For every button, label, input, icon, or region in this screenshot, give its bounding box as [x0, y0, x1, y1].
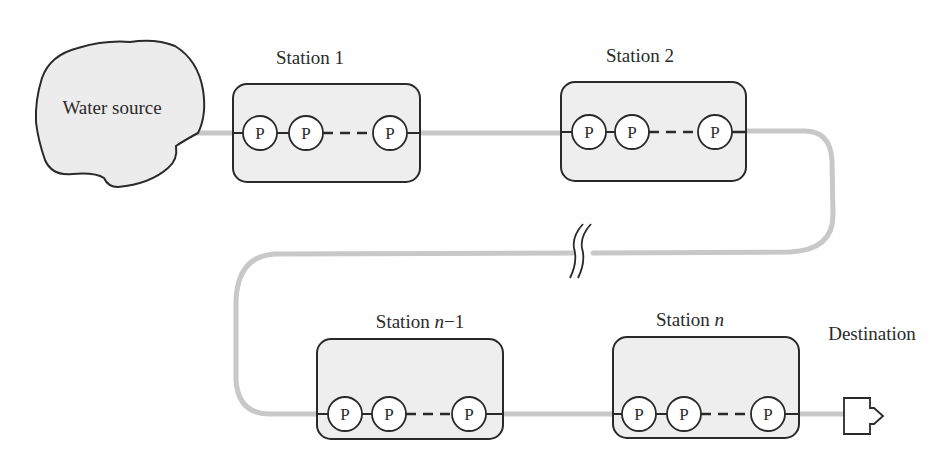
svg-text:P: P [627, 123, 636, 142]
destination-label: Destination [828, 323, 916, 345]
station-label-index: 2 [665, 45, 675, 66]
pump-icon: P [667, 397, 701, 431]
svg-text:P: P [340, 405, 349, 424]
station-n-label: Station n [656, 309, 724, 331]
water-source-label: Water source [62, 97, 161, 119]
svg-text:P: P [385, 124, 394, 143]
pump-icon: P [243, 116, 277, 150]
station-label-prefix: Station [656, 309, 710, 330]
station-label-prefix: Station [276, 47, 330, 68]
svg-text:P: P [679, 405, 688, 424]
diagram-canvas: P P P P P P P P P [0, 0, 950, 465]
pump-icon: P [615, 115, 649, 149]
station-2-label: Station 2 [606, 45, 674, 67]
svg-text:P: P [464, 405, 473, 424]
pump-icon: P [452, 397, 486, 431]
destination-outlet-icon [844, 398, 883, 434]
station-label-prefix: Station [376, 311, 430, 332]
pump-icon: P [373, 116, 407, 150]
svg-text:P: P [384, 405, 393, 424]
station-label-index: n [715, 309, 725, 330]
pump-icon: P [328, 397, 362, 431]
station-label-prefix: Station [606, 45, 660, 66]
pump-icon: P [622, 397, 656, 431]
svg-text:P: P [634, 405, 643, 424]
svg-text:P: P [584, 123, 593, 142]
station-n-1-box: P P P [317, 339, 503, 439]
svg-text:P: P [763, 405, 772, 424]
pumping-station-diagram: P P P P P P P P P [0, 0, 950, 465]
svg-text:P: P [710, 123, 719, 142]
station-n-1-label: Station n−1 [376, 311, 464, 333]
station-label-suffix: −1 [444, 311, 464, 332]
pump-icon: P [289, 116, 323, 150]
station-label-index: n [434, 311, 444, 332]
station-n-box: P P P [613, 337, 799, 438]
pump-icon: P [372, 397, 406, 431]
svg-text:P: P [301, 124, 310, 143]
station-1-label: Station 1 [276, 47, 344, 69]
pump-icon: P [751, 397, 785, 431]
station-2-box: P P P [561, 82, 746, 181]
pump-icon: P [698, 115, 732, 149]
svg-text:P: P [255, 124, 264, 143]
station-label-index: 1 [335, 47, 345, 68]
pump-icon: P [572, 115, 606, 149]
station-1-box: P P P [233, 84, 420, 182]
